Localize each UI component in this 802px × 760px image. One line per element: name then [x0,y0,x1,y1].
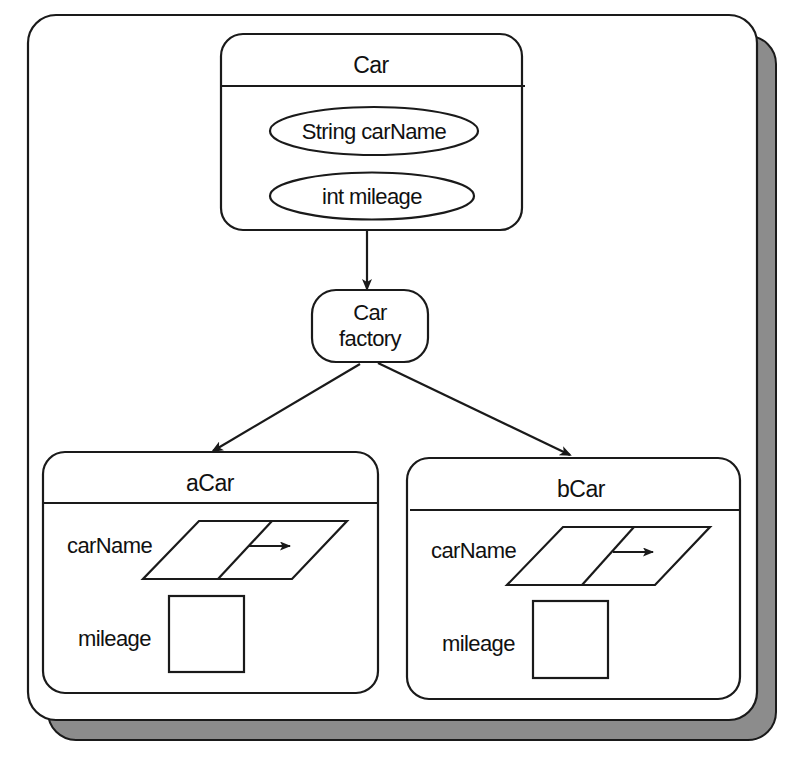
diagram-canvas: Car String carName int mileage Car facto… [0,0,802,760]
instance-title-acar: aCar [186,470,235,496]
acar-carname-label: carName [67,533,152,558]
field-mileage-label: int mileage [322,184,422,209]
instance-title-bcar: bCar [557,476,606,502]
factory-label-line2: factory [339,326,401,351]
figure-caption [64,750,764,760]
bcar-mileage-label: mileage [442,631,515,656]
factory-label-line1: Car [353,300,387,325]
field-carname-label: String carName [302,119,447,144]
car-class-title: Car [353,52,389,78]
bcar-carname-label: carName [431,538,516,563]
acar-mileage-label: mileage [78,626,151,651]
